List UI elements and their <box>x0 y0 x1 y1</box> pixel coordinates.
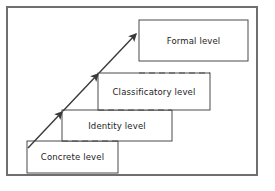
level-box-concrete-level <box>27 141 118 173</box>
figure-root: Concrete levelIdentity levelClassificato… <box>0 0 275 191</box>
arrow-identity-to-classificatory <box>63 74 98 111</box>
level-box-formal-level <box>139 20 248 61</box>
arrow-classificatory-to-formal <box>99 34 136 73</box>
level-box-identity-level <box>62 110 172 141</box>
level-box-classificatory-level <box>98 73 210 110</box>
staircase-diagram-canvas <box>0 0 275 191</box>
level-boxes-group <box>27 20 248 173</box>
